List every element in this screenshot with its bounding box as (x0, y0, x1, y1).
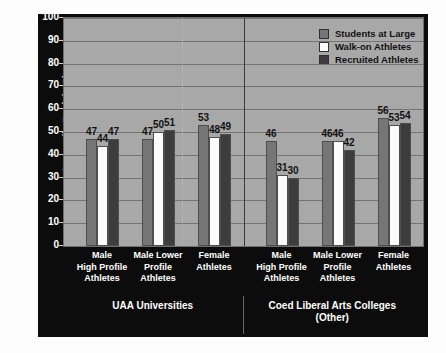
y-tick-label-20: 20 (37, 194, 59, 204)
y-axis-ticks: 1009080706050403020100 (38, 14, 63, 337)
bar-walkon-athletes (209, 137, 220, 246)
bar-recruited-athletes (108, 139, 119, 246)
bar-value-label: 51 (159, 118, 181, 128)
y-tick-label-40: 40 (37, 149, 59, 159)
panel-title-line: Coed Liberal Arts Colleges (243, 300, 423, 312)
bar-recruited-athletes (220, 134, 231, 246)
bar-walkon-athletes (389, 125, 400, 246)
x-axis-label-line: Athletes (177, 262, 251, 274)
x-axis-label-line: Athletes (357, 262, 431, 274)
panel-title-line: (Other) (243, 312, 423, 324)
bar-walkon-athletes (277, 175, 288, 246)
y-tick-label-70: 70 (37, 80, 59, 90)
bar-value-label: 49 (215, 122, 237, 132)
bar-students-at-large (266, 141, 277, 246)
panel-title: Coed Liberal Arts Colleges(Other) (243, 300, 423, 324)
x-axis-label-line: Female (177, 250, 251, 262)
legend-swatch-students-at-large (319, 29, 329, 39)
x-axis-category-labels: MaleHigh ProfileAthletesMale LowerProfil… (63, 250, 424, 298)
background-vertical-line (182, 18, 183, 246)
panel-title-line: UAA Universities (63, 300, 243, 312)
panel-title: UAA Universities (63, 300, 243, 312)
legend-label-walkon-athletes: Walk-on Athletes (335, 41, 411, 53)
chart-frame: Percentile Rank in Class 100908070605040… (38, 14, 428, 337)
bar-walkon-athletes (153, 132, 164, 246)
bar-students-at-large (142, 139, 153, 246)
x-axis-label: FemaleAthletes (177, 250, 251, 273)
bar-recruited-athletes (400, 123, 411, 246)
panel-title-divider (243, 296, 244, 334)
chart-container: Percentile Rank in Class 100908070605040… (0, 0, 446, 353)
plot-area: Students at Large Walk-on Athletes Recru… (63, 17, 424, 247)
bar-walkon-athletes (97, 146, 108, 246)
bar-students-at-large (198, 125, 209, 246)
y-tick-label-60: 60 (37, 103, 59, 113)
x-axis-label-line: Athletes (301, 273, 375, 285)
bar-students-at-large (378, 118, 389, 246)
y-tick-label-90: 90 (37, 35, 59, 45)
y-tick-label-0: 0 (37, 240, 59, 250)
x-axis-label-line: Athletes (121, 273, 195, 285)
bar-recruited-athletes (164, 130, 175, 246)
y-tick-label-30: 30 (37, 172, 59, 182)
legend-item-walkon-athletes: Walk-on Athletes (319, 41, 424, 53)
bar-recruited-athletes (288, 178, 299, 246)
bar-walkon-athletes (333, 141, 344, 246)
chart-legend: Students at Large Walk-on Athletes Recru… (319, 28, 424, 67)
x-axis-label-line: Female (357, 250, 431, 262)
panel-titles: UAA UniversitiesCoed Liberal Arts Colleg… (63, 300, 424, 334)
legend-swatch-walkon-athletes (319, 42, 329, 52)
bar-value-label: 30 (282, 166, 304, 176)
legend-item-students-at-large: Students at Large (319, 28, 424, 40)
x-axis-label: FemaleAthletes (357, 250, 431, 273)
y-tick-label-100: 100 (37, 12, 59, 22)
y-tick-label-10: 10 (37, 217, 59, 227)
bar-value-label: 46 (260, 129, 282, 139)
bar-value-label: 53 (193, 113, 215, 123)
bar-students-at-large (322, 141, 333, 246)
bar-value-label: 54 (394, 111, 416, 121)
legend-label-students-at-large: Students at Large (335, 28, 415, 40)
bar-recruited-athletes (344, 150, 355, 246)
y-tick-label-50: 50 (37, 126, 59, 136)
bar-value-label: 47 (103, 127, 125, 137)
bar-value-label: 42 (338, 138, 360, 148)
y-tick-label-80: 80 (37, 58, 59, 68)
panel-divider (244, 18, 245, 246)
bar-students-at-large (86, 139, 97, 246)
